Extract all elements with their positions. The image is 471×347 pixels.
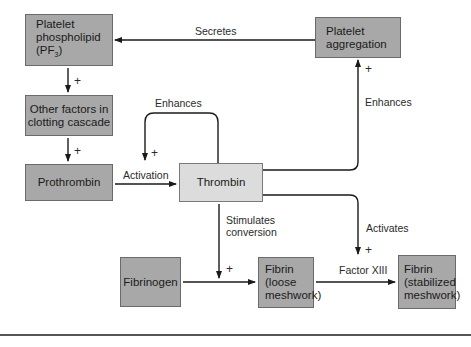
node-thrombin: Thrombin (179, 163, 263, 202)
node-label: Fibrin (loose meshwork) (265, 263, 321, 302)
node-fibrin-stabilized: Fibrin (stabilized meshwork) (398, 255, 456, 309)
edge-label-factor-xiii: Factor XIII (339, 264, 387, 276)
plus-sign: + (74, 74, 81, 88)
node-label: Thrombin (197, 176, 246, 189)
edge-label-enhances-aggregation: Enhances (365, 96, 412, 108)
node-fibrin-loose: Fibrin (loose meshwork) (258, 257, 314, 308)
node-platelet-aggregation: Platelet aggregation (315, 17, 401, 58)
node-other-factors: Other factors in clotting cascade (25, 95, 113, 136)
plus-sign: + (151, 146, 158, 160)
edge-label-stimulates-conversion: Stimulates conversion (226, 214, 277, 238)
node-prothrombin: Prothrombin (25, 164, 113, 201)
node-label: Prothrombin (38, 176, 101, 189)
node-label: Platelet aggregation (316, 25, 387, 51)
node-label: Plateletphospholipid(PF3) (26, 18, 101, 61)
node-platelet-phospholipid: Plateletphospholipid(PF3) (25, 14, 113, 66)
edge-label-activates: Activates (366, 222, 409, 234)
plus-sign: + (365, 62, 372, 76)
edge-label-secretes: Secretes (195, 25, 236, 37)
horizontal-divider (0, 334, 471, 336)
node-label: Other factors in clotting cascade (28, 103, 110, 129)
node-label: Fibrinogen (123, 276, 177, 289)
node-label: Fibrin (stabilized meshwork) (404, 263, 460, 302)
plus-sign: + (365, 243, 372, 257)
node-fibrinogen: Fibrinogen (120, 257, 181, 307)
edge-label-activation: Activation (123, 169, 169, 181)
plus-sign: + (226, 262, 233, 276)
plus-sign: + (74, 144, 81, 158)
edge-label-enhances-loop: Enhances (155, 97, 202, 109)
